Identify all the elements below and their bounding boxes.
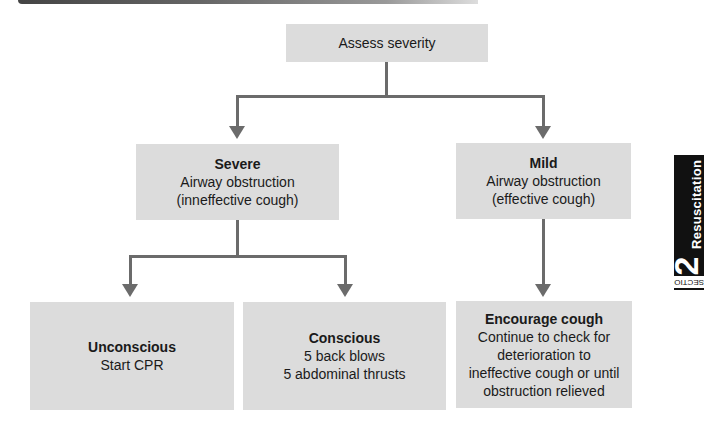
node-text: Start CPR [100,356,163,374]
arrow-down-icon [535,284,551,297]
connector [129,255,132,286]
arrow-down-icon [535,126,551,139]
section-tab-title: Resuscitation [689,159,704,249]
connector [236,95,239,127]
node-encourage-cough: Encourage cough Continue to check for de… [456,301,632,408]
section-tab-label: SECTION [674,276,704,288]
node-text: 5 abdominal thrusts [283,365,405,383]
node-assess-severity: Assess severity [286,24,488,62]
node-conscious: Conscious 5 back blows 5 abdominal thrus… [243,302,446,410]
node-title: Mild [530,154,558,172]
arrow-down-icon [122,284,138,297]
arrow-down-icon [229,126,245,139]
connector [236,220,239,257]
section-tab-number: 2 [674,257,701,276]
node-title: Conscious [309,329,381,347]
node-text: Airway obstruction [486,172,600,190]
top-rule [18,0,478,4]
node-unconscious: Unconscious Start CPR [30,302,234,410]
connector [542,219,545,285]
node-label: Assess severity [338,34,435,52]
node-severe: Severe Airway obstruction (inneffective … [136,144,339,220]
node-text: Airway obstruction [180,173,294,191]
node-text: (effective cough) [492,190,595,208]
connector [542,95,545,127]
node-title: Encourage cough [485,310,603,328]
section-tab: Resuscitation 2 SECTION [674,155,704,290]
connector [236,95,545,98]
connector [385,62,388,97]
node-text: Continue to check for [478,328,610,346]
node-title: Unconscious [88,338,176,356]
node-text: ineffective cough or until [469,364,620,382]
node-text: (inneffective cough) [177,191,299,209]
node-text: obstruction relieved [483,382,604,400]
arrow-down-icon [337,284,353,297]
node-title: Severe [215,155,261,173]
connector [344,255,347,286]
connector [129,255,347,258]
node-text: 5 back blows [304,347,385,365]
node-text: deterioration to [497,346,590,364]
node-mild: Mild Airway obstruction (effective cough… [456,143,631,219]
